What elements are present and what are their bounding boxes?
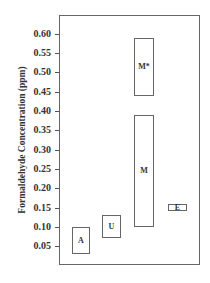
- bar-label: A: [78, 236, 84, 245]
- bar-m-star: M*: [134, 38, 154, 96]
- y-tick-label: 0.50: [17, 67, 51, 77]
- y-tick-label: 0.15: [17, 203, 51, 213]
- y-tick-label: 0.10: [17, 222, 51, 232]
- y-tick-label: 0.25: [17, 164, 51, 174]
- y-tick-label: 0.20: [17, 183, 51, 193]
- bar-label: M: [140, 166, 148, 175]
- y-tick-label: 0.60: [17, 29, 51, 39]
- y-tick-label: 0.05: [17, 241, 51, 251]
- bar-m: M: [134, 115, 154, 227]
- bar-e: E: [168, 204, 187, 212]
- bar-label: E: [175, 203, 180, 212]
- y-tick-label: 0.55: [17, 48, 51, 58]
- bar-u: U: [102, 215, 121, 238]
- y-tick-label: 0.45: [17, 87, 51, 97]
- bar-label: M*: [138, 62, 150, 71]
- y-tick-label: 0.40: [17, 106, 51, 116]
- bar-label: U: [109, 222, 115, 231]
- y-tick-label: 0.30: [17, 145, 51, 155]
- y-tick-label: 0.35: [17, 125, 51, 135]
- bar-a: A: [72, 227, 90, 254]
